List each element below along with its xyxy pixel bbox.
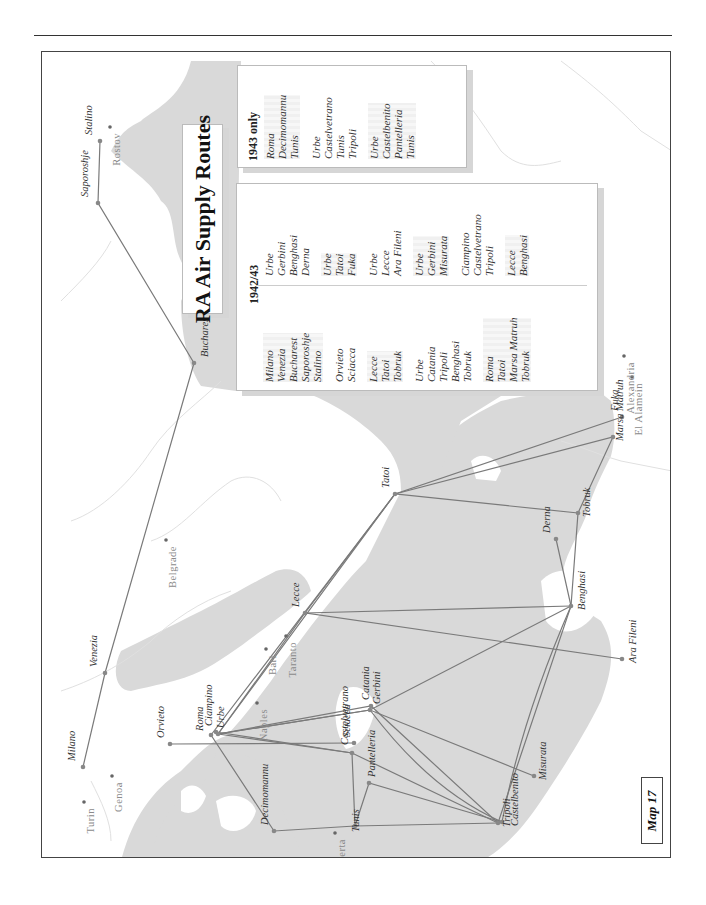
label-urbe: Urbe: [215, 706, 226, 728]
legend-route-stop: Roma: [264, 95, 276, 159]
legend-route: UrbeCastelvetranoTunisTripoli: [310, 97, 358, 159]
airfield-urbe-point: [216, 732, 221, 737]
legend-route: UrbeCataniaTripoliBenghasiTobruk: [413, 341, 473, 382]
label-decimomannu: Decimomannu: [259, 764, 270, 826]
label-tunis: Tunis: [350, 809, 361, 832]
legend-route-stop: Tripoli: [483, 214, 495, 276]
label-naples: Naples: [258, 709, 269, 741]
legend-route-stop: Castelvetrano: [322, 97, 334, 159]
legend-route-stop: Bucharest: [287, 333, 299, 382]
legend-route-stop: Fuka: [345, 253, 357, 276]
legend-1943-heading: 1943 only: [246, 112, 261, 161]
legend-route-stop: Tatoi: [379, 351, 391, 382]
airfield-pantelleria-point: [367, 781, 372, 786]
city-bari-point: [264, 647, 268, 651]
legend-route-stop: Tunis: [334, 97, 346, 159]
legend-route-stop: Tatoi: [333, 253, 345, 276]
legend-route-stop: Roma: [483, 318, 495, 382]
legend-route-stop: Marsa Matruh: [507, 318, 519, 382]
airfield-tripoli-point: [496, 821, 501, 826]
map-canvas: MilanoVeneziaBucharestSaporoshjeStalinoO…: [42, 52, 671, 858]
label-milano: Milano: [66, 731, 77, 762]
legend-route-stop: Catania: [425, 341, 437, 382]
legend-route: UrbeGerbiniMisurata: [413, 236, 449, 276]
label-rostov: Rostov: [111, 133, 122, 166]
legend-route-stop: Derna: [299, 235, 311, 276]
airfield-sciacca-point: [352, 741, 357, 746]
label-venezia: Venezia: [88, 635, 99, 667]
legend-route: CiampinoCastelvetranoTripoli: [459, 214, 495, 276]
legend-route-stop: Tobruk: [519, 318, 531, 382]
label-catania: Catania: [360, 666, 371, 700]
legend-route-stop: Gerbini: [275, 235, 287, 276]
legend-route-stop: Orvieto: [333, 348, 345, 382]
label-misurata: Misurata: [537, 741, 548, 781]
label-ciampino: Ciampino: [203, 685, 214, 726]
label-castelvetrano: Castelvetrano: [339, 686, 350, 745]
legend-route-stop: Urbe: [321, 253, 333, 276]
airfield-stalino-point: [98, 139, 103, 144]
legend-route-stop: Urbe: [368, 103, 380, 159]
airfield-orvieto-point: [168, 742, 173, 747]
legend-route-stop: Urbe: [263, 235, 275, 276]
airfield-derna-point: [554, 537, 559, 542]
legend-route-stop: Urbe: [367, 230, 379, 276]
city-turin-point: [82, 800, 86, 804]
legend-route-stop: Venezia: [275, 333, 287, 382]
airfield-roma-point: [209, 733, 214, 738]
legend-divider: [257, 285, 587, 286]
airfield-lecce-point: [303, 611, 308, 616]
legend-route-stop: Sciacca: [345, 348, 357, 382]
legend-route-stop: Benghasi: [287, 235, 299, 276]
legend-route: RomaDecimomannuTunis: [264, 95, 300, 159]
label-saporoshje: Saporoshje: [79, 150, 90, 197]
legend-route-stop: Lecce: [379, 230, 391, 276]
label-turin: Turin: [85, 808, 96, 834]
map-number-box: Map 17: [641, 777, 663, 844]
legend-route-stop: Tripoli: [346, 97, 358, 159]
legend-1943-only: 1943 only RomaDecimomannuTunisUrbeCastel…: [237, 65, 467, 168]
legend-route-stop: Saporoshje: [299, 333, 311, 382]
map-number: Map 17: [644, 790, 660, 831]
label-orvieto: Orvieto: [155, 706, 166, 738]
label-bizerta: Bizerta: [336, 839, 347, 858]
airfield-saporoshje-point: [96, 201, 101, 206]
airfield-benghasi-point: [569, 604, 574, 609]
legend-route-stop: Misurata: [437, 236, 449, 276]
airfield-misurata-point: [532, 774, 537, 779]
legend-route-stop: Castelvetrano: [471, 214, 483, 276]
label-stalino: Stalino: [83, 105, 94, 135]
legend-route-stop: Tripoli: [437, 341, 449, 382]
legend-route: OrvietoSciacca: [333, 348, 357, 382]
legend-route-stop: Ara Fileni: [391, 230, 403, 276]
legend-route: LecceBenghasi: [505, 235, 529, 276]
city-alexandria-point: [622, 354, 626, 358]
legend-route-stop: Tunis: [288, 95, 300, 159]
airfield-gerbini-point: [368, 708, 373, 713]
city-genoa-point: [110, 774, 114, 778]
airfield-bucharest-point: [192, 361, 197, 366]
legend-route-stop: Castelbenito: [380, 103, 392, 159]
airfield-castelvetrano-point: [350, 751, 355, 756]
legend-route-stop: Tobruk: [391, 351, 403, 382]
label-taranto: Taranto: [287, 642, 298, 677]
map-frame: MilanoVeneziaBucharestSaporoshjeStalinoO…: [41, 51, 671, 858]
legend-1942-43: 1942/43 MilanoVeneziaBucharestSaporoshje…: [236, 183, 598, 391]
city-naples-point: [255, 701, 259, 705]
legend-route-stop: Tobruk: [461, 341, 473, 382]
legend-route-stop: Benghasi: [517, 235, 529, 276]
legend-route: UrbeGerbiniBenghasiDerna: [263, 235, 311, 276]
label-fuka: Fuka: [609, 389, 620, 412]
map-title-box: RA Air Supply Routes: [182, 124, 223, 314]
airfield-decimomannu-point: [272, 829, 277, 834]
city-bizerta-point: [333, 831, 337, 835]
label-belgrade: Belgrade: [167, 546, 178, 588]
label-lecce: Lecce: [290, 582, 301, 608]
city-taranto-point: [284, 634, 288, 638]
legend-route: RomaTatoiMarsa MatruhTobruk: [483, 318, 531, 382]
label-benghasi: Benghasi: [576, 571, 587, 610]
label-tatoi: Tatoi: [380, 467, 391, 488]
legend-route: UrbeCastelbenitoPantelleriaTunis: [368, 103, 416, 159]
legend-route-stop: Stalino: [311, 333, 323, 382]
city-rostov-point: [108, 125, 112, 129]
